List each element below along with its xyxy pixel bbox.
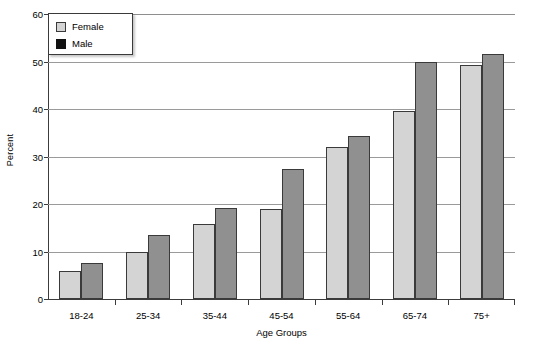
bar-female-55-64 — [326, 147, 348, 299]
y-tick-label-20: 20 — [32, 199, 43, 210]
bar-male-25-34 — [148, 235, 170, 299]
y-tick-label-40: 40 — [32, 104, 43, 115]
x-tick-label-65-74: 65-74 — [403, 310, 427, 321]
y-tick-label-30: 30 — [32, 151, 43, 162]
x-axis-line — [48, 299, 515, 300]
y-tick-label-10: 10 — [32, 246, 43, 257]
y-tick-label-60: 60 — [32, 9, 43, 20]
bar-male-75+ — [482, 54, 504, 299]
y-tick-mark-20 — [44, 204, 48, 205]
y-tick-label-0: 0 — [38, 294, 43, 305]
legend-item-female: Female — [56, 19, 132, 34]
x-tick-mark-4 — [315, 300, 316, 305]
y-tick-mark-40 — [44, 109, 48, 110]
bar-chart: Percent 0102030405060 18-2425-3435-4445-… — [0, 0, 534, 348]
y-axis-title-text: Percent — [5, 134, 15, 166]
bar-male-65-74 — [415, 62, 437, 299]
x-tick-mark-2 — [181, 300, 182, 305]
bar-male-55-64 — [348, 136, 370, 299]
gridline-40 — [48, 109, 515, 110]
bar-male-45-54 — [282, 169, 304, 299]
y-tick-mark-50 — [44, 62, 48, 63]
female-swatch-icon — [56, 22, 66, 32]
x-tick-label-75+: 75+ — [474, 310, 490, 321]
x-tick-label-45-54: 45-54 — [269, 310, 293, 321]
y-tick-mark-30 — [44, 157, 48, 158]
bar-female-75+ — [460, 65, 482, 299]
legend-label-male: Male — [72, 39, 93, 49]
gridline-30 — [48, 157, 515, 158]
legend-item-male: Male — [56, 36, 132, 51]
gridline-50 — [48, 62, 515, 63]
y-tick-mark-0 — [44, 299, 48, 300]
bar-female-65-74 — [393, 111, 415, 299]
x-tick-mark-1 — [115, 300, 116, 305]
x-tick-label-25-34: 25-34 — [136, 310, 160, 321]
bar-female-18-24 — [59, 271, 81, 299]
bar-female-25-34 — [126, 252, 148, 300]
x-tick-mark-6 — [448, 300, 449, 305]
x-tick-mark-5 — [382, 300, 383, 305]
y-tick-label-50: 50 — [32, 56, 43, 67]
bar-female-45-54 — [260, 209, 282, 299]
legend-label-female: Female — [72, 22, 104, 32]
bar-male-18-24 — [81, 263, 103, 299]
bar-male-35-44 — [215, 208, 237, 299]
x-tick-mark-3 — [248, 300, 249, 305]
x-axis-title: Age Groups — [48, 327, 515, 338]
x-tick-label-55-64: 55-64 — [336, 310, 360, 321]
male-swatch-icon — [56, 39, 66, 49]
y-tick-mark-10 — [44, 252, 48, 253]
plot-area: 0102030405060 18-2425-3435-4445-5455-646… — [48, 14, 515, 300]
y-axis-title: Percent — [0, 0, 20, 300]
chart-legend: Female Male — [48, 13, 133, 55]
x-tick-mark-end — [514, 300, 515, 305]
bar-female-35-44 — [193, 224, 215, 299]
x-tick-label-35-44: 35-44 — [203, 310, 227, 321]
x-tick-label-18-24: 18-24 — [69, 310, 93, 321]
